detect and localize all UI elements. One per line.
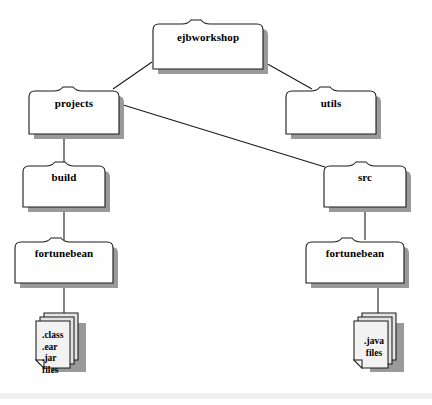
folder-icon	[152, 18, 264, 70]
node-label-fortunebean-build: fortunebean	[14, 248, 114, 260]
node-label-src: src	[323, 172, 407, 184]
folder-icon	[285, 85, 377, 135]
node-java-files[interactable]: .java files	[348, 310, 410, 376]
node-label-projects: projects	[28, 98, 120, 110]
page-edge-artifact	[0, 393, 432, 399]
node-utils[interactable]: utils	[285, 85, 377, 135]
node-class-files[interactable]: .class .ear .jar files	[30, 310, 92, 376]
node-label-ejbworkshop: ejbworkshop	[152, 32, 264, 44]
folder-icon	[28, 85, 120, 135]
node-projects[interactable]: projects	[28, 85, 120, 135]
node-label-utils: utils	[285, 98, 377, 110]
node-label-build: build	[22, 172, 106, 184]
node-label-fortunebean-src: fortunebean	[305, 248, 405, 260]
node-fortunebean-src[interactable]: fortunebean	[305, 236, 405, 284]
node-fortunebean-build[interactable]: fortunebean	[14, 236, 114, 284]
document-label-java-files: .java files	[358, 336, 390, 359]
node-src[interactable]: src	[323, 160, 407, 208]
document-label-class-files: .class .ear .jar files	[42, 330, 76, 376]
node-build[interactable]: build	[22, 160, 106, 208]
diagram-canvas: ejbworkshop projects utils	[0, 0, 432, 405]
node-ejbworkshop[interactable]: ejbworkshop	[152, 18, 264, 70]
